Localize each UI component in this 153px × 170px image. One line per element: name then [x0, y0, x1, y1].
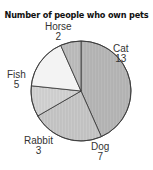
label-value: 5 [7, 80, 26, 90]
label-value: 7 [91, 152, 109, 162]
slice-label-horse: Horse 2 [45, 22, 72, 42]
label-value: 13 [113, 54, 129, 64]
slice-label-dog: Dog 7 [91, 142, 109, 162]
label-value: 3 [24, 146, 53, 156]
slice-label-rabbit: Rabbit 3 [24, 136, 53, 156]
label-value: 2 [45, 32, 72, 42]
slice-label-cat: Cat 13 [113, 44, 129, 64]
slice-label-fish: Fish 5 [7, 70, 26, 90]
